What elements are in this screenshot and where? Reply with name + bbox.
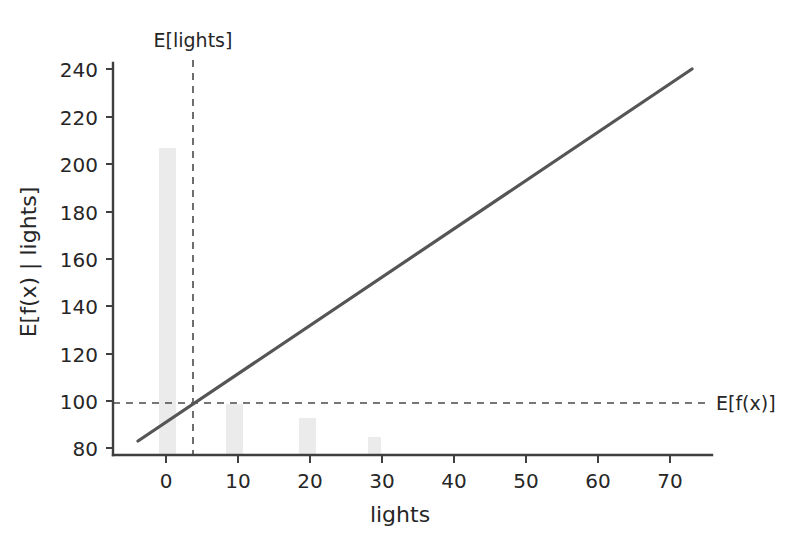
x-tick-label: 60 bbox=[585, 469, 610, 493]
x-tick-label: 10 bbox=[225, 469, 250, 493]
chart-figure: 80 100 120 140 160 180 200 220 240 0 10 … bbox=[0, 0, 799, 541]
hist-bar bbox=[159, 148, 176, 455]
x-tick-label: 40 bbox=[441, 469, 466, 493]
conditional-expectation-line bbox=[138, 69, 692, 441]
y-tick-label: 100 bbox=[60, 390, 98, 414]
y-tick-label: 200 bbox=[60, 153, 98, 177]
y-tick-label: 120 bbox=[60, 343, 98, 367]
y-tick-label: 80 bbox=[73, 437, 98, 461]
x-tick-label: 70 bbox=[657, 469, 682, 493]
hist-bar bbox=[226, 404, 243, 455]
y-tick-label: 180 bbox=[60, 201, 98, 225]
hist-bar bbox=[368, 437, 381, 455]
x-axis-title: lights bbox=[370, 502, 430, 527]
y-tick-label: 220 bbox=[60, 106, 98, 130]
y-tick-label: 160 bbox=[60, 248, 98, 272]
x-tick-label: 50 bbox=[513, 469, 538, 493]
y-axis-title: E[f(x) | lights] bbox=[16, 187, 42, 338]
y-axis-tick-labels: 80 100 120 140 160 180 200 220 240 bbox=[60, 58, 98, 461]
chart-canvas: 80 100 120 140 160 180 200 220 240 0 10 … bbox=[0, 0, 799, 541]
y-tick-label: 240 bbox=[60, 58, 98, 82]
expected-lights-label: E[lights] bbox=[154, 29, 233, 51]
expected-fx-label: E[f(x)] bbox=[716, 392, 776, 414]
x-tick-label: 20 bbox=[297, 469, 322, 493]
x-axis-tick-labels: 0 10 20 30 40 50 60 70 bbox=[160, 469, 683, 493]
x-tick-label: 30 bbox=[369, 469, 394, 493]
x-tick-label: 0 bbox=[160, 469, 173, 493]
y-tick-label: 140 bbox=[60, 295, 98, 319]
hist-bar bbox=[299, 418, 316, 455]
